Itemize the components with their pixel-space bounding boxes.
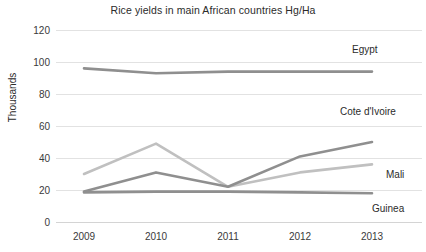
series-label-guinea: Guinea — [372, 203, 404, 214]
series-line-mali — [84, 142, 372, 192]
series-label-mali: Mali — [386, 169, 404, 180]
series-label-egypt: Egypt — [352, 44, 378, 55]
plot-area — [0, 0, 426, 252]
series-line-guinea — [84, 192, 372, 194]
series-label-cote-divoire: Cote d'Ivoire — [340, 106, 396, 117]
line-chart: Rice yields in main African countries Hg… — [0, 0, 426, 252]
series-line-egypt — [84, 68, 372, 73]
